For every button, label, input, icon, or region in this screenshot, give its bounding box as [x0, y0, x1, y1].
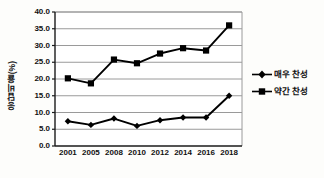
legend-square-marker-icon [252, 86, 272, 97]
x-axis-tick-label: 2001 [59, 149, 77, 157]
legend-label: 매우 찬성 [274, 70, 308, 79]
legend-diamond-marker-icon [252, 69, 272, 80]
legend-item: 매우 찬성 [252, 66, 322, 83]
x-axis-tick-label: 2008 [105, 149, 123, 157]
x-axis-tick-label: 2012 [151, 149, 169, 157]
x-axis-tick-label: 2005 [82, 149, 100, 157]
x-axis-tick-label: 2016 [197, 149, 215, 157]
chart-legend: 매우 찬성 약간 찬성 [252, 66, 322, 100]
x-axis-tick-label: 2010 [128, 149, 146, 157]
x-axis-tick-label: 2014 [174, 149, 192, 157]
x-axis-tick-label: 2018 [220, 149, 238, 157]
legend-label: 약간 찬성 [274, 87, 308, 96]
x-axis-tick-labels: 20012005200820102012201420162018 [55, 149, 242, 165]
legend-item: 약간 찬성 [252, 83, 322, 100]
line-chart: 응답비율(%) 0.05.010.015.020.025.030.035.040… [0, 0, 324, 178]
